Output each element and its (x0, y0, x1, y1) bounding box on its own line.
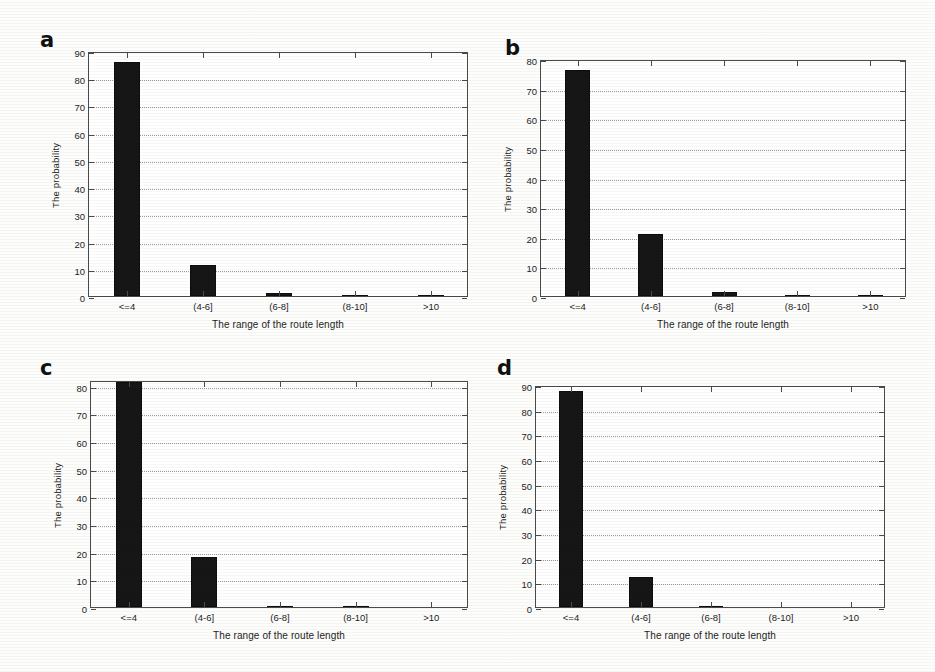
y-axis-tick-label: 80 (521, 406, 532, 417)
x-axis-tick (851, 387, 852, 392)
x-axis-tick (641, 602, 642, 607)
bar (559, 391, 583, 607)
y-axis-tick-label: 0 (527, 604, 532, 615)
x-axis-tick (571, 387, 572, 392)
y-axis-tick-label: 50 (521, 480, 532, 491)
panel-letter-d: d (497, 358, 512, 379)
x-axis-tick-label: <=4 (563, 612, 579, 623)
y-axis-title-d: The probability (497, 465, 508, 530)
y-axis-tick-label: 10 (521, 579, 532, 590)
y-axis-tick-label: 70 (521, 431, 532, 442)
x-axis-title-d: The range of the route length (535, 630, 885, 641)
x-axis-tick (641, 387, 642, 392)
x-axis-tick (711, 387, 712, 392)
bars-d: <=4(4-6](6-8](8-10]>10 (536, 387, 884, 607)
plot-area-d: 0102030405060708090<=4(4-6](6-8](8-10]>1… (535, 386, 885, 608)
x-axis-tick-label: (4-6] (631, 612, 651, 623)
figure-root: a0102030405060708090<=4(4-6](6-8](8-10]>… (0, 0, 935, 672)
y-axis-tick (536, 609, 541, 610)
x-axis-tick (711, 602, 712, 607)
y-axis-tick (879, 609, 884, 610)
x-axis-tick-label: (6-8] (701, 612, 721, 623)
y-axis-tick-label: 40 (521, 505, 532, 516)
x-axis-tick-label: >10 (843, 612, 859, 623)
x-axis-tick-label: (8-10] (769, 612, 794, 623)
y-axis-tick-label: 60 (521, 456, 532, 467)
panel-d: d0102030405060708090<=4(4-6](6-8](8-10]>… (0, 0, 935, 672)
y-axis-tick-label: 30 (521, 530, 532, 541)
x-axis-tick (781, 387, 782, 392)
x-axis-tick (781, 602, 782, 607)
x-axis-tick (571, 602, 572, 607)
y-axis-tick-label: 20 (521, 554, 532, 565)
x-axis-tick (851, 602, 852, 607)
y-axis-tick-label: 90 (521, 382, 532, 393)
